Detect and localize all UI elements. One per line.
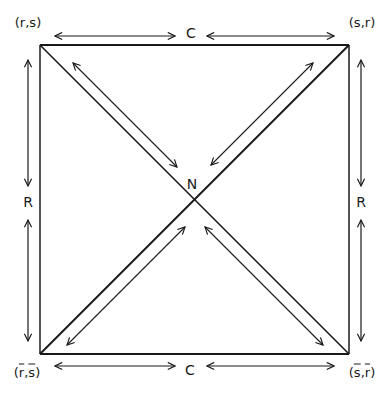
relation-square-diagram — [0, 0, 383, 394]
corner-label-top-left: (r,s) — [15, 15, 41, 30]
double-arrow-icon — [73, 63, 177, 167]
edge-label-top: C — [186, 25, 196, 41]
diagonals — [40, 45, 349, 354]
corner-label-part: s — [29, 15, 36, 30]
corner-label-part: r — [365, 365, 370, 380]
corner-label-part: s — [28, 365, 35, 380]
center-label: N — [187, 176, 197, 192]
corner-label-bottom-right: (s,r) — [349, 365, 375, 380]
edge-label-right: R — [356, 194, 366, 210]
corner-label-bottom-left: (r,s) — [14, 365, 40, 380]
corner-label-part: r — [20, 15, 25, 30]
double-arrow-icon — [205, 227, 323, 345]
edge-label-left: R — [23, 194, 33, 210]
corner-label-part: r — [365, 15, 370, 30]
corner-label-part: s — [354, 15, 361, 30]
corner-label-part: r — [19, 365, 24, 380]
corner-label-part: s — [354, 365, 361, 380]
double-arrow-icon — [67, 227, 185, 345]
corner-label-top-right: (s,r) — [349, 15, 375, 30]
diagonal-n-arrows — [67, 63, 323, 345]
double-arrow-icon — [211, 63, 313, 165]
edge-label-bottom: C — [185, 362, 195, 378]
